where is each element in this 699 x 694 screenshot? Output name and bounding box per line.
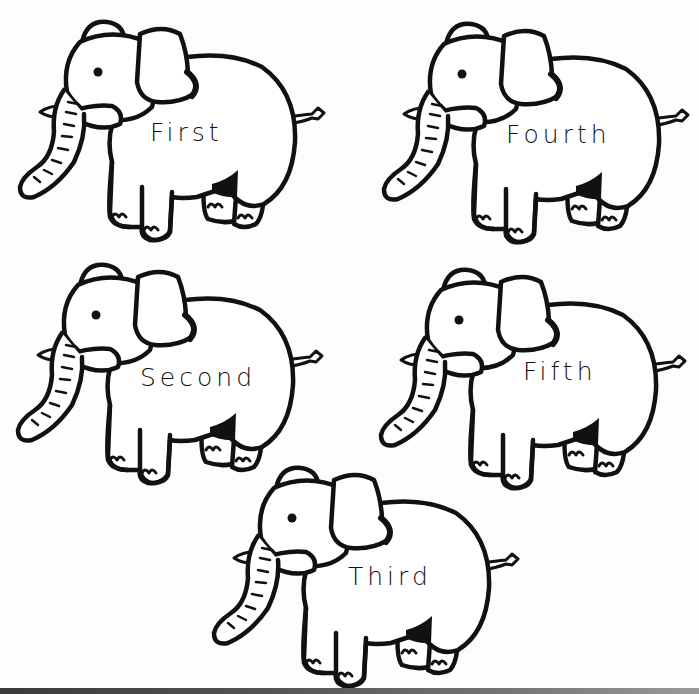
elephant-label: Fifth: [523, 357, 597, 386]
elephant-label: First: [150, 118, 223, 147]
elephant-label: Second: [140, 363, 256, 392]
elephant-label: Fourth: [506, 120, 611, 149]
scan-edge-shadow: [0, 688, 699, 694]
elephant-fourth: Fourth: [376, 14, 696, 249]
elephant-third: Third: [206, 458, 526, 693]
elephant-second: Second: [10, 255, 330, 490]
elephant-label: Third: [348, 562, 432, 591]
elephant-first: First: [12, 12, 332, 247]
